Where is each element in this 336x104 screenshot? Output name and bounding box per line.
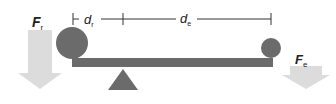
resistance-mass bbox=[56, 27, 88, 59]
lever-beam bbox=[72, 58, 273, 67]
effort-mass bbox=[261, 38, 281, 58]
effort-force-label: Fe bbox=[295, 52, 308, 69]
effort-force-arrow-icon bbox=[282, 66, 330, 89]
lever-diagram: Fr Fe bbox=[0, 0, 336, 104]
dimension-lines bbox=[73, 13, 271, 25]
effort-distance-label: de bbox=[180, 11, 191, 27]
resistance-force-label: Fr bbox=[32, 14, 44, 32]
fulcrum-triangle bbox=[108, 69, 138, 90]
resistance-distance-label: dr bbox=[84, 12, 94, 28]
resistance-force-arrow-icon bbox=[18, 30, 62, 89]
